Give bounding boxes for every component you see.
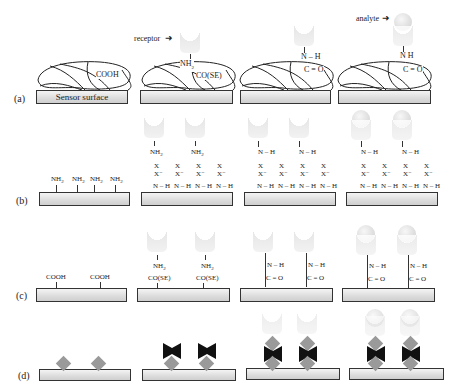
receptor-shape xyxy=(351,120,371,140)
receptor-shape xyxy=(248,118,268,138)
receptor-annotation: receptor xyxy=(134,35,160,43)
row-label-c: (c) xyxy=(16,290,27,301)
bond-line xyxy=(157,283,158,288)
x-minus-label: X⁻ xyxy=(382,170,391,178)
nh2-label: NH2 xyxy=(90,175,103,186)
bond-line xyxy=(157,255,158,260)
nh-label: N – H xyxy=(267,261,284,269)
x-label: X xyxy=(321,162,326,170)
x-label: X xyxy=(279,162,284,170)
x-minus-label: X⁻ xyxy=(217,170,226,178)
sensor-surface-a3 xyxy=(240,90,331,104)
nh2-label: NH2 xyxy=(180,60,194,72)
sensor-surface-d1 xyxy=(39,369,131,381)
nh-label: N – H xyxy=(369,262,386,270)
sensor-surface-b2 xyxy=(141,192,233,206)
nh-link-label: N – H xyxy=(381,182,398,190)
nh-link-label: N – H xyxy=(195,182,212,190)
bond-line xyxy=(367,255,368,288)
receptor-shape xyxy=(289,118,309,138)
bond-line xyxy=(402,141,403,147)
nh-label: N – H xyxy=(258,148,275,156)
x-label: X xyxy=(382,162,387,170)
c-eq-o-label: C = O xyxy=(409,275,426,283)
x-label: X xyxy=(403,162,408,170)
cooh-label: COOH xyxy=(90,273,110,281)
nh-link-label: N – H xyxy=(423,182,440,190)
c-eq-o-label: C = O xyxy=(307,274,324,282)
row-label-d: (d) xyxy=(18,370,30,381)
sensor-surface-c2 xyxy=(137,288,230,302)
nh2-label: NH2 xyxy=(153,262,166,273)
receptor-shape xyxy=(294,26,314,46)
x-label: X xyxy=(154,162,159,170)
x-label: X xyxy=(361,162,366,170)
nh-label: N – H xyxy=(402,148,419,156)
x-minus-label: X⁻ xyxy=(196,170,205,178)
nh-link-label: N – H xyxy=(320,182,337,190)
sensor-surface-c1 xyxy=(36,288,127,302)
nh-label: N – H xyxy=(410,262,427,270)
c-eq-o-label: C = O xyxy=(368,275,385,283)
x-minus-label: X⁻ xyxy=(361,170,370,178)
receptor-shape xyxy=(297,314,317,334)
nh-link-label: N – H xyxy=(216,182,233,190)
nh-label: N – H xyxy=(299,148,316,156)
c-eq-o-label: C = O xyxy=(304,66,324,74)
x-minus-label: X⁻ xyxy=(321,170,330,178)
x-minus-label: X⁻ xyxy=(154,170,163,178)
nh2-label: NH2 xyxy=(110,175,123,186)
nh2-label: NH2 xyxy=(201,262,214,273)
sensor-surface-b1 xyxy=(39,192,130,206)
receptor-shape xyxy=(356,235,376,255)
x-label: X xyxy=(300,162,305,170)
sensor-surface-label: Sensor surface xyxy=(37,92,127,102)
bond-line xyxy=(258,141,259,147)
sensor-surface-d2 xyxy=(142,369,236,381)
nh-link-label: N – H xyxy=(402,182,419,190)
nh-label: N – H xyxy=(301,53,321,61)
x-label: X xyxy=(196,162,201,170)
analyte-annotation: analyte xyxy=(356,15,379,23)
receptor-shape xyxy=(195,232,215,252)
sensor-surface-a2 xyxy=(140,90,233,104)
x-minus-label: X⁻ xyxy=(279,170,288,178)
nh2-label: NH2 xyxy=(191,148,204,159)
sensor-surface-d3 xyxy=(246,368,340,380)
arrow-right-icon: ➜ xyxy=(165,33,173,43)
bond-line xyxy=(100,282,101,288)
x-label: X xyxy=(258,162,263,170)
bond-line xyxy=(154,141,155,146)
sensor-surface-d4 xyxy=(349,368,444,380)
receptor-shape xyxy=(397,235,417,255)
receptor-shape xyxy=(185,118,205,138)
receptor-shape xyxy=(180,33,200,53)
cooh-label: COOH xyxy=(46,273,66,281)
x-minus-label: X⁻ xyxy=(258,170,267,178)
bond-line xyxy=(205,255,206,260)
bond-line xyxy=(195,141,196,146)
nh-label: N – H xyxy=(361,148,378,156)
nh-link-label: N – H xyxy=(299,182,316,190)
x-minus-label: X⁻ xyxy=(175,170,184,178)
c-eq-o-label: C = O xyxy=(266,274,283,282)
nh-link-label: N – H xyxy=(153,182,170,190)
bond-line xyxy=(408,255,409,288)
x-label: X xyxy=(217,162,222,170)
sensor-surface-c4 xyxy=(342,288,435,302)
bond-line xyxy=(299,141,300,147)
n-h-label: N H xyxy=(400,52,414,60)
bond-line xyxy=(56,282,57,288)
sensor-surface-b4 xyxy=(346,192,438,206)
nh-link-label: N – H xyxy=(257,182,274,190)
sensor-surface-a1: Sensor surface xyxy=(36,90,128,104)
arrow-right-icon: ➜ xyxy=(382,13,390,23)
sensor-surface-a4 xyxy=(338,90,431,104)
nh-link-label: N – H xyxy=(278,182,295,190)
co-se-label: CO(SE) xyxy=(148,274,171,282)
x-minus-label: X⁻ xyxy=(300,170,309,178)
bond-line xyxy=(361,141,362,147)
nh2-label: NH2 xyxy=(51,175,64,186)
c-eq-o-label: C = O xyxy=(403,66,423,74)
x-label: X xyxy=(175,162,180,170)
